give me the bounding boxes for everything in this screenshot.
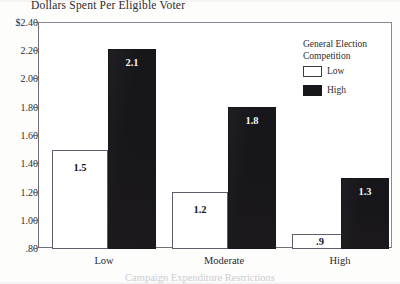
legend-swatch-high-icon: [303, 85, 322, 96]
bar-low-competition-high: .9: [292, 234, 348, 249]
bar-value-label: 1.5: [53, 162, 107, 173]
x-axis-label: Campaign Expenditure Restrictions: [125, 272, 275, 283]
x-category-label-moderate: Moderate: [204, 255, 244, 266]
legend-title-line-1: General Election: [303, 39, 367, 51]
y-tick-mark-1-00: [33, 220, 38, 221]
legend-title-line-2: Competition: [303, 51, 367, 63]
y-tick-mark-2-40: [33, 22, 38, 23]
y-tick-mark-1-40: [33, 163, 38, 164]
legend-item-high: High: [303, 85, 367, 97]
y-tick-mark-2-20: [33, 50, 38, 51]
y-tick-mark-0-80: [33, 248, 38, 249]
y-tick-mark-1-80: [33, 107, 38, 108]
bar-value-label: 2.1: [109, 57, 155, 68]
x-category-label-high: High: [330, 255, 351, 266]
bar-value-label: .9: [293, 236, 347, 247]
x-category-label-low: Low: [94, 255, 113, 266]
bar-low-competition-low: 1.5: [52, 150, 108, 249]
bar-high-competition-high: 1.3: [341, 178, 389, 249]
legend: General Election Competition Low High: [303, 39, 367, 96]
bar-low-competition-moderate: 1.2: [172, 192, 228, 249]
bar-high-competition-low: 2.1: [108, 49, 156, 249]
legend-label-high: High: [327, 85, 346, 97]
bar-value-label: 1.2: [173, 204, 227, 215]
bar-value-label: 1.8: [229, 115, 275, 126]
chart-page: Dollars Spent Per Eligible Voter $2.40 2…: [0, 0, 400, 284]
legend-item-low: Low: [303, 66, 367, 78]
y-tick-mark-1-20: [33, 192, 38, 193]
bar-high-competition-moderate: 1.8: [228, 107, 276, 249]
legend-swatch-low-icon: [303, 66, 322, 77]
bar-value-label: 1.3: [342, 186, 388, 197]
legend-label-low: Low: [327, 66, 344, 78]
y-tick-mark-2-00: [33, 78, 38, 79]
y-tick-mark-1-60: [33, 135, 38, 136]
page-title: Dollars Spent Per Eligible Voter: [31, 0, 185, 11]
